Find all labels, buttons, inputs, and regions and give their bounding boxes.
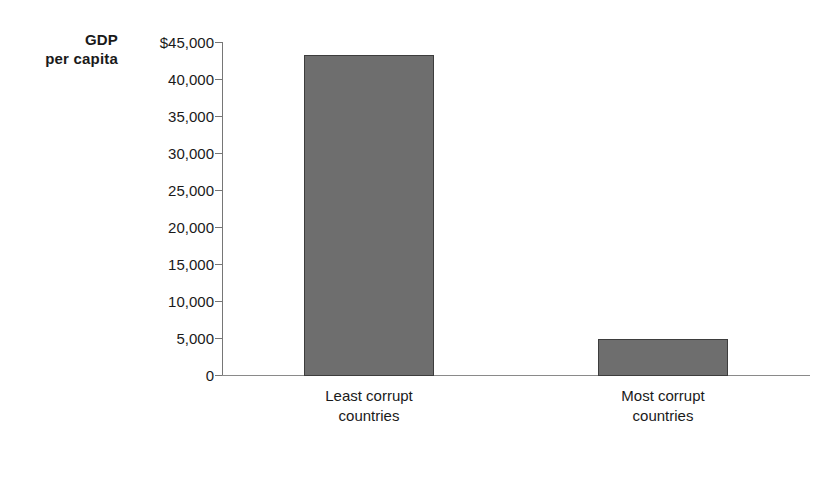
y-axis-tick-label: 40,000	[118, 72, 214, 87]
y-axis-tick-label: 30,000	[118, 146, 214, 161]
y-axis-tick	[215, 301, 222, 302]
y-axis-title: GDP per capita	[18, 30, 118, 68]
y-axis-tick-label: 10,000	[118, 294, 214, 309]
y-axis-tick	[215, 153, 222, 154]
y-axis-tick-label: $45,000	[118, 35, 214, 50]
x-axis-category-label: Least corrupt countries	[222, 386, 516, 426]
x-axis-category-label: Most corrupt countries	[516, 386, 810, 426]
y-axis-tick-label: 15,000	[118, 257, 214, 272]
y-axis-tick	[215, 190, 222, 191]
y-axis-tick	[215, 42, 222, 43]
y-axis-tick-labels: $45,00040,00035,00030,00025,00020,00015,…	[108, 42, 214, 375]
y-axis-tick	[215, 116, 222, 117]
y-axis-tick	[215, 264, 222, 265]
bar	[304, 55, 434, 376]
y-axis-tick-label: 35,000	[118, 109, 214, 124]
y-axis-tick	[215, 79, 222, 80]
bar	[598, 339, 728, 376]
y-axis-tick-label: 0	[118, 368, 214, 383]
y-axis-tick-label: 25,000	[118, 183, 214, 198]
y-axis-tick	[215, 227, 222, 228]
y-axis-tick	[215, 375, 222, 376]
y-axis-tick-label: 20,000	[118, 220, 214, 235]
bar-chart-figure: GDP per capita $45,00040,00035,00030,000…	[0, 0, 836, 482]
y-axis-tick	[215, 338, 222, 339]
plot-area	[222, 42, 810, 375]
y-axis-line	[222, 42, 223, 375]
y-axis-tick-label: 5,000	[118, 331, 214, 346]
